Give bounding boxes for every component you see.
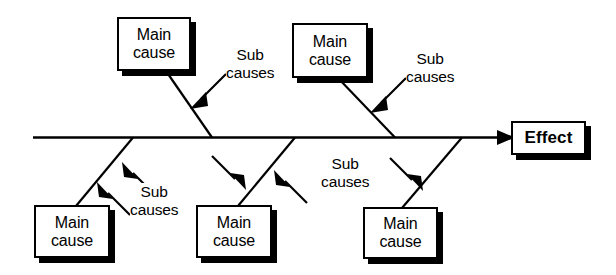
sub-causes-label-line1: Sub [130, 183, 179, 201]
sub-cause-arrow-bottom-left-lower-shaft [108, 193, 130, 215]
sub-cause-arrow-top-left-head-icon [190, 92, 208, 109]
sub-causes-label-top-right: Sub causes [406, 50, 455, 87]
main-cause-label-line2: cause [51, 232, 93, 250]
main-cause-label-line1: Main [383, 215, 417, 233]
sub-causes-label-line1: Sub [321, 155, 370, 173]
main-cause-box-bottom-left[interactable]: Main cause [34, 205, 110, 258]
rib-bottom-middle [238, 138, 295, 207]
main-cause-label-line1: Main [313, 33, 347, 51]
main-cause-label-line2: cause [133, 44, 175, 62]
effect-label: Effect [525, 128, 573, 147]
sub-causes-label-bottom-left: Sub causes [130, 183, 179, 220]
main-cause-label-line2: cause [379, 233, 421, 251]
sub-cause-arrow-bottom-right-shaft [390, 158, 412, 180]
sub-cause-arrow-bottom-middle-left-shaft [212, 156, 235, 179]
main-cause-box-bottom-middle[interactable]: Main cause [196, 205, 272, 258]
sub-cause-arrow-bottom-middle-left [212, 156, 246, 190]
sub-causes-label-line2: causes [226, 64, 275, 82]
sub-cause-arrow-bottom-right [390, 158, 423, 191]
sub-causes-label-bottom-middle: Sub causes [321, 155, 370, 192]
sub-causes-label-line2: causes [406, 68, 455, 86]
main-cause-label-line2: cause [213, 232, 255, 250]
sub-causes-label-top-left: Sub causes [226, 46, 275, 83]
sub-cause-arrow-bottom-middle-right-shaft [285, 181, 307, 203]
rib-bottom-right [402, 138, 462, 209]
main-cause-box-top-left[interactable]: Main cause [117, 17, 191, 71]
sub-causes-label-line2: causes [321, 173, 370, 191]
main-cause-box-top-right[interactable]: Main cause [292, 23, 368, 78]
sub-causes-label-line2: causes [130, 201, 179, 219]
main-cause-label-line1: Main [217, 214, 251, 232]
main-cause-label-line1: Main [55, 214, 89, 232]
main-cause-label-line1: Main [137, 26, 171, 44]
sub-cause-arrow-top-left [190, 74, 226, 109]
main-cause-box-bottom-right[interactable]: Main cause [363, 207, 438, 259]
fishbone-diagram: Main cause Main cause Main cause Main ca… [0, 0, 616, 275]
sub-cause-arrow-top-right-head-icon [370, 96, 388, 113]
sub-causes-label-line1: Sub [406, 50, 455, 68]
effect-box[interactable]: Effect [511, 121, 586, 155]
main-cause-label-line2: cause [309, 51, 351, 69]
spine-group [33, 130, 515, 145]
sub-cause-arrow-top-right [370, 78, 406, 113]
sub-cause-arrow-bottom-middle-right [274, 170, 307, 203]
sub-causes-label-line1: Sub [226, 46, 275, 64]
